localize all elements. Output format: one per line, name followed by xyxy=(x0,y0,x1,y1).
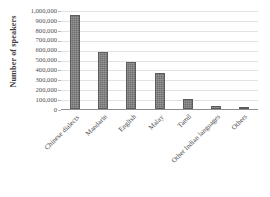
x-axis-tick-label: Tamil xyxy=(176,113,193,130)
x-axis-tick-labels: Chinese dialectsMandarinEnglishMalayTami… xyxy=(0,0,270,197)
x-axis-tick-label: English xyxy=(117,113,138,134)
bar-chart: Number of speakers 1,000,000900,000800,0… xyxy=(0,0,270,197)
x-axis-tick-label: Chinese dialects xyxy=(43,113,81,151)
x-axis-tick-label: Mandarin xyxy=(84,113,109,138)
x-axis-tick-label: Malay xyxy=(147,113,165,131)
x-axis-tick-label: Others xyxy=(230,113,249,132)
